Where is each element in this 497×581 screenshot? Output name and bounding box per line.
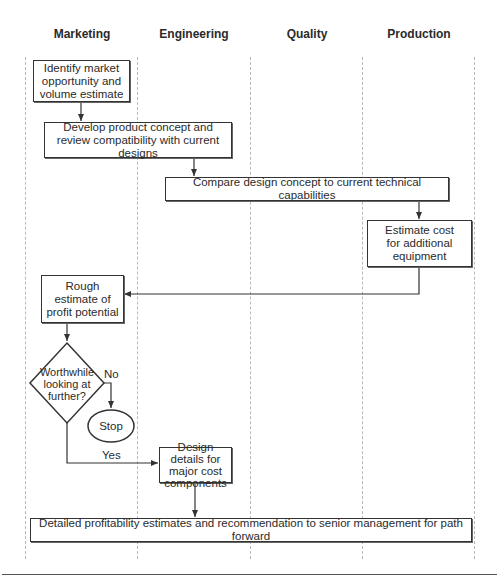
node-rough-estimate: Rough estimate of profit potential [41, 275, 124, 323]
edge-label-yes: Yes [102, 449, 121, 461]
bottom-rule [2, 574, 497, 575]
stop-text: Stop [88, 418, 134, 434]
node-develop-concept: Develop product concept and review compa… [44, 122, 232, 158]
node-detailed-estimates: Detailed profitability estimates and rec… [30, 518, 472, 542]
node-compare-design: Compare design concept to current techni… [165, 177, 449, 201]
node-estimate-cost: Estimate cost for additional equipment [367, 220, 472, 267]
node-identify-market: Identify market opportunity and volume e… [33, 60, 130, 102]
node-design-details: Design details for major cost components [159, 447, 232, 483]
edge-label-no: No [104, 368, 119, 380]
decision-text: Worthwhile looking at further? [34, 364, 100, 404]
